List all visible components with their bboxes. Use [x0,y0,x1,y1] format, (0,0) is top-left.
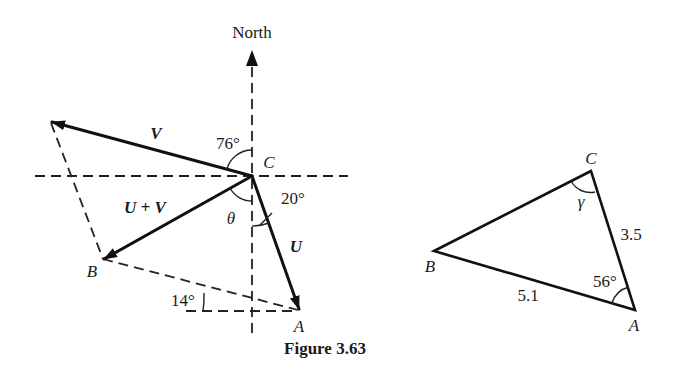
label-76-deg: 76° [216,134,240,153]
label-a: A [293,317,305,336]
angle-arc-theta [230,188,252,201]
label-56-deg: 56° [593,272,617,291]
figure-caption: Figure 3.63 [284,339,366,358]
label-20-deg: 20° [281,189,305,208]
label-c: C [263,153,275,172]
label-u-plus-v: U + V [124,198,167,217]
label-side-5-1: 5.1 [517,286,538,305]
figure-3-63: North V 76° C 20° U + V θ U B 14° A [0,0,678,380]
angle-arc-14 [203,293,204,311]
label-theta: θ [227,209,235,228]
angle-arc-gamma [571,181,595,193]
label-u: U [290,237,303,256]
label-b: B [87,262,98,281]
label-gamma: γ [578,192,586,211]
north-label: North [232,23,272,42]
parallelogram-side-v-to-b [51,123,103,259]
label-side-3-5: 3.5 [620,225,641,244]
label-b-right: B [425,257,436,276]
triangle-abc-diagram: C γ 3.5 B 56° 5.1 A [425,149,642,335]
north-arrow-icon [246,50,258,66]
label-c-right: C [585,149,597,168]
parallelogram-side-b-to-a [103,259,298,310]
label-v: V [150,124,163,143]
label-a-right: A [628,316,640,335]
vector-addition-diagram: North V 76° C 20° U + V θ U B 14° A [35,23,348,336]
label-14-deg: 14° [171,291,195,310]
